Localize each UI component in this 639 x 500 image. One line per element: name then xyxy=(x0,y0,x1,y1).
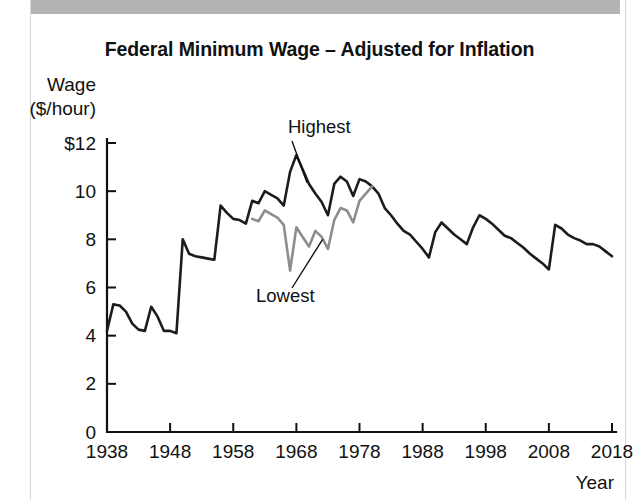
y-axis-tick-label: 6 xyxy=(85,277,96,298)
y-axis-tick-label: 4 xyxy=(85,325,96,346)
y-axis-tick-label: $12 xyxy=(64,133,96,154)
chart-canvas: 0246810$12193819481958196819781988199820… xyxy=(0,0,639,500)
x-axis-tick-label: 2008 xyxy=(528,441,570,462)
y-axis-title-line2: ($/hour) xyxy=(29,98,96,119)
annotation-lowest-leader xyxy=(292,239,323,288)
y-axis-tick-label: 2 xyxy=(85,373,96,394)
axis-lines xyxy=(107,139,616,432)
figure-page: Federal Minimum Wage – Adjusted for Infl… xyxy=(0,0,639,500)
annotation-highest-label: Highest xyxy=(288,116,351,137)
y-axis-title-line1: Wage xyxy=(47,74,96,95)
x-axis-tick-label: 1998 xyxy=(465,441,507,462)
x-axis-tick-label: 1968 xyxy=(275,441,317,462)
y-axis-tick-label: 8 xyxy=(85,229,96,250)
data-series-lowest xyxy=(252,186,372,270)
x-axis-tick-label: 1988 xyxy=(401,441,443,462)
x-axis-tick-label: 1978 xyxy=(338,441,380,462)
chart-svg: 0246810$12193819481958196819781988199820… xyxy=(0,0,639,500)
data-series-highest xyxy=(107,155,612,333)
x-axis-tick-label: 1958 xyxy=(212,441,254,462)
x-axis-tick-label: 1948 xyxy=(149,441,191,462)
x-axis-tick-label: 2018 xyxy=(591,441,633,462)
x-axis-tick-label: 1938 xyxy=(86,441,128,462)
y-axis-tick-label: 10 xyxy=(75,181,96,202)
y-axis-tick-label: 0 xyxy=(85,422,96,443)
x-axis-title: Year xyxy=(576,472,615,493)
annotation-lowest-label: Lowest xyxy=(256,285,315,306)
